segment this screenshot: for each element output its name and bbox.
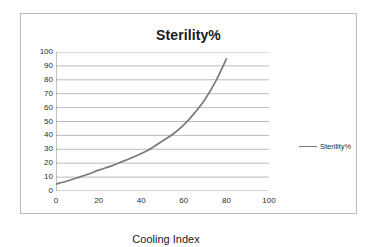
y-axis-tick-label: 40 (27, 131, 53, 139)
legend-label: Sterility% (320, 142, 351, 151)
y-axis-tick-label: 90 (27, 62, 53, 70)
y-axis-tick-label: 70 (27, 90, 53, 98)
gridlines (56, 52, 269, 191)
y-axis-tick-label: 60 (27, 104, 53, 112)
y-axis-tick-label: 100 (27, 48, 53, 56)
x-axis-tick-labels: 020406080100 (56, 196, 269, 208)
y-axis-tick-label: 0 (27, 187, 53, 195)
x-axis-tick-label: 60 (169, 196, 199, 205)
x-axis-tick-label: 100 (254, 196, 284, 205)
chart-legend: Sterility% (299, 142, 351, 151)
x-axis-tick-label: 20 (84, 196, 114, 205)
x-axis-tick-label: 40 (126, 196, 156, 205)
x-axis-title: Cooling Index (41, 233, 291, 245)
legend-line-swatch (299, 146, 317, 147)
y-axis-tick-labels: 0102030405060708090100 (23, 52, 53, 191)
chart-frame: Sterility% 0102030405060708090100 020406… (20, 13, 357, 214)
x-axis-tick-label: 0 (41, 196, 71, 205)
y-axis-tick-label: 80 (27, 76, 53, 84)
plot-svg (56, 52, 269, 191)
x-axis-tick-label: 80 (211, 196, 241, 205)
y-axis-tick-label: 50 (27, 118, 53, 126)
y-axis-tick-label: 30 (27, 145, 53, 153)
plot-area (56, 52, 269, 191)
y-axis-tick-label: 20 (27, 159, 53, 167)
y-axis-tick-label: 10 (27, 173, 53, 181)
chart-title: Sterility% (21, 27, 356, 43)
